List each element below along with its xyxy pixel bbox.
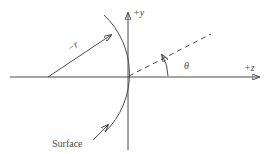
surface-curve [104, 15, 129, 132]
surface-callout-arrow [93, 125, 108, 140]
radius-arrow [48, 35, 111, 77]
angle-label: θ [184, 60, 189, 71]
diagram-canvas: +y +z −r θ Surface [0, 0, 274, 154]
theta-ray-dashed-line [129, 34, 211, 76]
z-axis-label: +z [244, 62, 255, 73]
optics-surface-diagram: +y +z −r θ Surface [0, 0, 274, 154]
y-axis-label: +y [133, 7, 145, 18]
surface-label: Surface [52, 138, 83, 149]
radius-label: −r [65, 39, 80, 54]
